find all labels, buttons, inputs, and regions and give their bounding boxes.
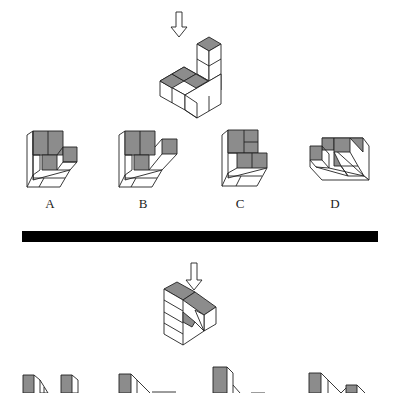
q2-option-b-figure[interactable] xyxy=(119,374,176,393)
q1-option-a-label: A xyxy=(40,196,60,212)
q1-option-d-figure[interactable] xyxy=(310,138,369,180)
q1-option-d-label: D xyxy=(325,196,345,212)
q1-option-c-label: C xyxy=(230,196,250,212)
q2-option-a-figure[interactable] xyxy=(23,375,78,393)
q1-reference-figure xyxy=(160,37,221,118)
q2-option-c-figure[interactable] xyxy=(213,367,265,393)
q1-option-a-figure[interactable] xyxy=(27,131,77,187)
question-divider-bar xyxy=(22,231,378,242)
q1-option-b-label: B xyxy=(133,196,153,212)
q2-reference-figure xyxy=(164,282,216,345)
q2-option-d-figure[interactable] xyxy=(309,373,365,393)
q1-option-b-figure[interactable] xyxy=(119,131,177,187)
q1-option-c-figure[interactable] xyxy=(222,130,267,186)
q1-view-arrow-icon xyxy=(171,12,187,37)
q2-view-arrow-icon xyxy=(186,263,202,290)
